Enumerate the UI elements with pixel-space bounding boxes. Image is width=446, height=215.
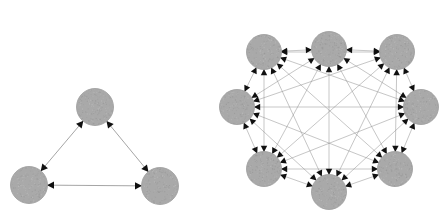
graph-figure-svg — [0, 0, 446, 215]
graph-node[interactable] — [404, 90, 439, 125]
figure-canvas — [0, 0, 446, 215]
graph-node[interactable] — [380, 35, 415, 70]
graph-node[interactable] — [312, 32, 347, 67]
graph-node[interactable] — [220, 90, 255, 125]
graph-node[interactable] — [247, 152, 282, 187]
graph-node[interactable] — [11, 167, 48, 204]
graph-node[interactable] — [378, 152, 413, 187]
graph-node[interactable] — [77, 89, 114, 126]
graph-node[interactable] — [312, 175, 347, 210]
graph-node[interactable] — [247, 35, 282, 70]
graph-node[interactable] — [142, 167, 179, 204]
